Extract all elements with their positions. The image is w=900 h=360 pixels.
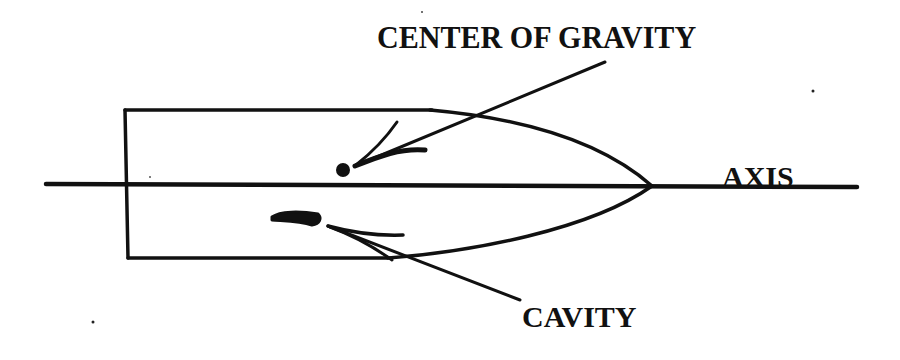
speckle — [812, 90, 815, 93]
diagram-canvas: CENTER OF GRAVITY AXIS CAVITY — [0, 0, 900, 360]
arrow-cavity — [328, 226, 520, 300]
cavity-label: CAVITY — [522, 302, 636, 332]
speckle — [92, 321, 95, 324]
center-of-gravity-dot — [336, 163, 350, 177]
arrow-center-of-gravity — [355, 62, 605, 166]
cavity-mark — [272, 212, 320, 225]
speckle — [149, 176, 151, 178]
speckle — [421, 11, 423, 13]
axis-label: AXIS — [722, 162, 794, 192]
center-of-gravity-label: CENTER OF GRAVITY — [377, 22, 696, 53]
